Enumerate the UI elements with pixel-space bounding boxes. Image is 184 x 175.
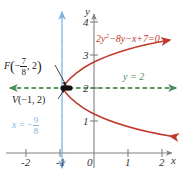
focus-numerator: 7 xyxy=(20,57,27,66)
x-tick-label-0: 0 xyxy=(87,157,93,168)
y-axis-label: y xyxy=(85,6,90,17)
y-tick-label-3: 3 xyxy=(83,50,89,61)
graph-canvas xyxy=(0,0,184,175)
x-tick-label-1: 1 xyxy=(125,157,131,168)
axis-of-symmetry-label: y = 2 xyxy=(123,72,144,82)
directrix-numerator: 9 xyxy=(33,116,40,125)
x-axis-label: x xyxy=(171,155,176,166)
focus-close-paren: ) xyxy=(37,59,42,74)
focus-label: F(−78, 2) xyxy=(4,57,42,77)
focus-denominator: 8 xyxy=(20,68,27,77)
focus-comma-y: , 2 xyxy=(27,60,37,71)
parabola-figure: -2 -1 0 1 2 1 2 3 4 x y 2y2−8y−x+7=0 y =… xyxy=(0,0,184,175)
y-tick-label-1: 1 xyxy=(83,116,89,127)
vertex-coords: (−1, 2) xyxy=(18,94,45,105)
x-tick-label--2: -2 xyxy=(21,157,30,168)
y-tick-label-4: 4 xyxy=(83,17,89,28)
vertex-label: V(−1, 2) xyxy=(12,95,45,105)
parabola-equation-label: 2y2−8y−x+7=0 xyxy=(96,33,160,44)
vertex-focus-points xyxy=(60,85,72,91)
directrix-fraction: 98 xyxy=(33,116,40,136)
equation-rest: −8y−x+7=0 xyxy=(109,33,160,44)
x-tick-label--1: -1 xyxy=(56,157,65,168)
directrix-equals: = xyxy=(19,119,25,130)
directrix-denominator: 8 xyxy=(33,127,40,136)
directrix-label: x = −98 xyxy=(12,116,39,136)
focus-leader-line xyxy=(55,65,66,87)
focus-fraction: 78 xyxy=(20,57,27,77)
y-tick-label-2: 2 xyxy=(83,83,89,94)
x-tick-label-2: 2 xyxy=(159,157,165,168)
directrix-lhs: x xyxy=(12,119,16,130)
